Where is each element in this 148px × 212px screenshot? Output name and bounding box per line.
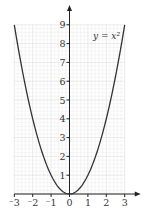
svg-text:6: 6	[59, 76, 65, 87]
svg-text:4: 4	[59, 113, 65, 124]
svg-text:8: 8	[59, 38, 65, 49]
svg-text:3: 3	[59, 132, 65, 143]
chart: ⁻3⁻2⁻10123123456789 y = x²	[0, 0, 148, 212]
svg-text:1: 1	[85, 197, 91, 208]
axes	[14, 5, 140, 197]
svg-text:2: 2	[59, 151, 65, 162]
svg-text:⁻2: ⁻2	[27, 197, 38, 208]
svg-text:2: 2	[103, 197, 109, 208]
svg-text:0: 0	[66, 197, 72, 208]
svg-text:1: 1	[59, 170, 65, 181]
svg-text:⁻3: ⁻3	[9, 197, 20, 208]
svg-text:7: 7	[59, 57, 65, 68]
equation-label: y = x²	[92, 31, 120, 41]
svg-text:3: 3	[122, 197, 128, 208]
svg-text:⁻1: ⁻1	[46, 197, 57, 208]
svg-text:5: 5	[59, 95, 65, 106]
svg-text:9: 9	[59, 19, 65, 30]
